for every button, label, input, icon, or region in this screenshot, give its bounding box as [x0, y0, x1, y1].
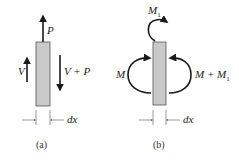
label-m: M [116, 68, 125, 80]
label-m-plus-m1-main: M + M [195, 68, 226, 80]
caption-a: (a) [36, 139, 47, 150]
beam-element-b [153, 42, 166, 105]
moment-m-plus-m1-arrow [169, 58, 191, 93]
label-m1: M1 [148, 4, 161, 19]
panel-b [128, 20, 191, 125]
label-p: P [47, 24, 54, 36]
moment-m1-arrow [148, 20, 167, 41]
label-m-plus-m1: M + M1 [195, 68, 230, 83]
label-dx-b: dx [183, 113, 193, 125]
beam-element-a [36, 42, 50, 106]
label-v: V [18, 65, 25, 77]
panel-a [22, 16, 64, 125]
label-v-plus-p: V + P [64, 65, 90, 77]
caption-b: (b) [153, 139, 165, 150]
label-m1-main: M [148, 4, 157, 16]
label-dx-a: dx [67, 113, 77, 125]
label-m-plus-m1-sub: 1 [226, 75, 230, 83]
moment-m-arrow [128, 58, 151, 93]
label-m1-sub: 1 [157, 11, 161, 19]
